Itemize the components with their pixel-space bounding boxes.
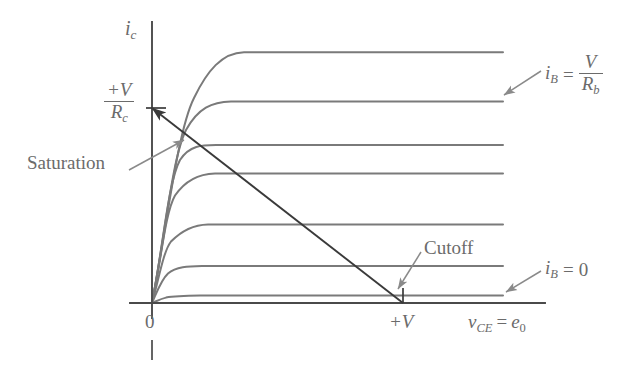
x-axis-tick-label: +V: [389, 312, 413, 331]
origin-label: 0: [145, 312, 155, 331]
dc-load-line: [152, 108, 403, 303]
saturation-label: Saturation: [27, 153, 105, 172]
axis-lines: [130, 22, 545, 318]
y-axis-label: ic: [125, 18, 136, 41]
characteristic-curves: [152, 52, 503, 303]
transistor-characteristic-figure: ic +V Rc Saturation Cutoff 0 +V vCE=e0 i…: [0, 0, 643, 379]
ib-zero-leader-arrow: [506, 271, 541, 292]
y-axis-tick-label: +V Rc: [104, 80, 134, 124]
cutoff-label: Cutoff: [424, 238, 473, 257]
ib-max-label: iB = V Rb: [545, 52, 603, 96]
curve-ib-5: [152, 101, 503, 303]
curve-ib-1: [152, 266, 503, 303]
ib-max-leader-arrow: [504, 71, 541, 95]
cutoff-leader-arrow: [398, 252, 421, 289]
x-axis-label: vCE=e0: [468, 312, 526, 334]
ib-zero-label: iB = 0: [545, 258, 588, 280]
curve-ib-0: [152, 296, 503, 303]
